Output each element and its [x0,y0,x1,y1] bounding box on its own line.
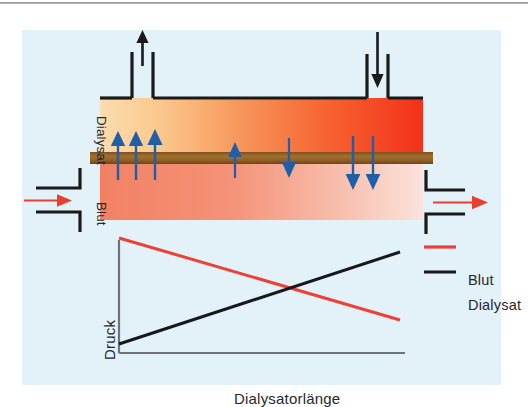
chart-series-blut [119,238,400,320]
figure-panel: Dialysat Blut Druck Dialysatorlänge Blut… [22,30,501,385]
membrane-bar [90,152,433,164]
blood-inlet-wall-upper [36,168,80,188]
blood-outlet-wall-upper [426,170,465,190]
blood-inlet-port [24,168,80,232]
blood-chamber [100,164,423,220]
blood-fill [100,164,423,220]
legend-label-dialysat: Dialysat [468,297,521,313]
blood-outlet-wall-lower [426,214,465,234]
arrow-right-red-blood-outlet [433,196,488,210]
arrow-down-black-dialysate-inlet [371,32,383,88]
top-divider-rule [0,2,528,4]
dialysate-outlet-port [132,30,153,98]
dialysate-inlet-port [367,32,388,98]
chart-series-dialysat [119,252,400,344]
chart-legend [424,247,456,272]
chart-y-axis-label: Druck [102,320,117,360]
legend-label-blut: Blut [468,272,494,288]
arrow-up-black-dialysate-outlet [136,30,148,66]
label-dialysat-chamber: Dialysat [95,116,109,165]
blood-inlet-wall-lower [36,212,80,232]
blood-outlet-port [426,170,488,234]
arrow-right-red-blood-inlet [24,194,72,207]
label-blut-chamber: Blut [95,202,109,226]
chart-x-axis-label: Dialysatorlänge [234,391,340,406]
membrane [90,152,433,164]
pressure-chart [119,238,405,353]
